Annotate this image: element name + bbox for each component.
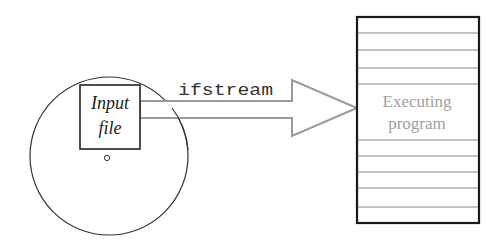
input-file-label-line2: file xyxy=(99,118,122,138)
input-file-label-line1: Input xyxy=(90,93,130,113)
program-label-line2: program xyxy=(388,114,446,133)
program-label-line1: Executing xyxy=(383,92,452,111)
stream-label: ifstream xyxy=(178,82,273,100)
input-file: Input file xyxy=(80,85,140,149)
file-stream-diagram: Input file ifstream Executing program xyxy=(0,0,504,244)
executing-program: Executing program xyxy=(357,17,479,223)
disk-spindle-icon xyxy=(104,155,109,160)
